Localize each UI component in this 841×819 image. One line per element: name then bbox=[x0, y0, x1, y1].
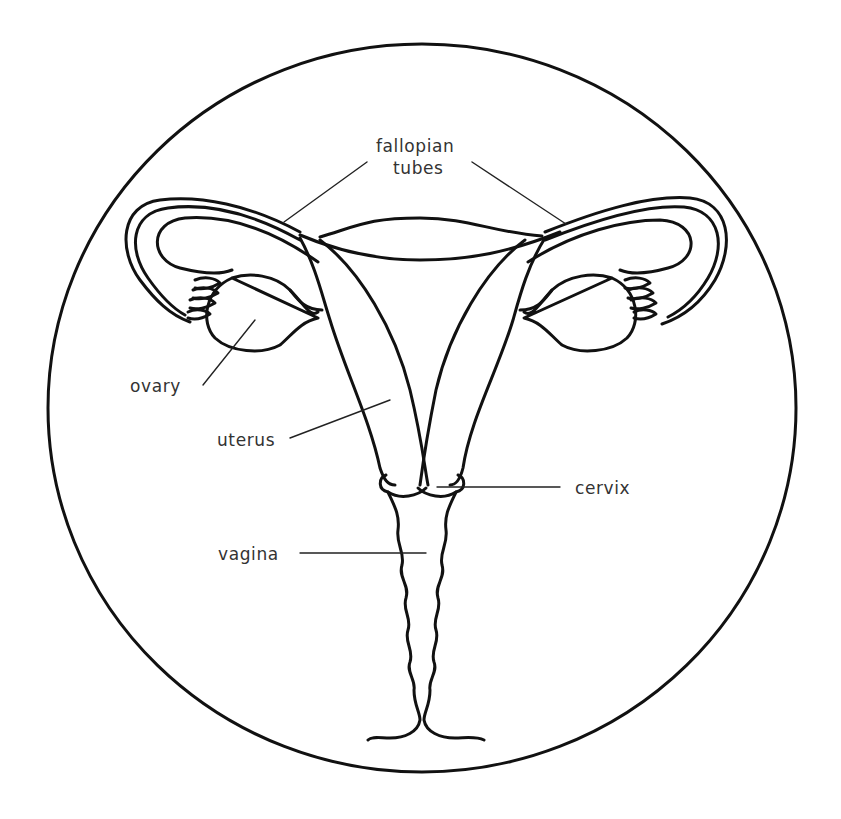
fallopian-tube-right bbox=[528, 198, 726, 324]
uterus bbox=[300, 238, 545, 485]
leader-uterus bbox=[290, 400, 390, 438]
leader-fallopian-right bbox=[472, 162, 566, 224]
ovary-right bbox=[520, 275, 636, 351]
leader-fallopian-left bbox=[284, 162, 367, 222]
label-uterus: uterus bbox=[217, 430, 275, 450]
reproductive-system-diagram bbox=[0, 0, 841, 819]
ovary-left bbox=[207, 275, 322, 351]
label-cervix: cervix bbox=[575, 478, 630, 498]
label-fallopian-tubes-line2: tubes bbox=[393, 158, 444, 178]
label-vagina: vagina bbox=[218, 544, 279, 564]
uterus-fundus bbox=[320, 218, 542, 237]
label-fallopian-tubes-line1: fallopian bbox=[376, 136, 454, 156]
vagina bbox=[368, 492, 484, 740]
label-ovary: ovary bbox=[130, 376, 181, 396]
